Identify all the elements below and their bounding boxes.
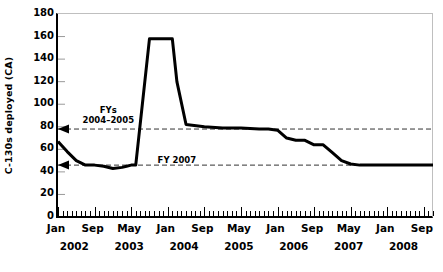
x-tick-mark-minor: [433, 211, 434, 216]
x-tick-label: Sep: [411, 222, 433, 235]
chart-annotation: FYs2004–2005: [83, 105, 135, 125]
x-year-label: 2005: [224, 240, 253, 253]
y-axis-title-label: C-130s deployed (CA): [4, 56, 15, 174]
annotation-line-2: 2004–2005: [83, 115, 135, 125]
annotation-line-1: FYs: [83, 105, 135, 115]
x-year-label: 2004: [169, 240, 198, 253]
x-axis-tick-labels: JanSepMayJanSepMayJanSepMayJanSep: [0, 222, 443, 238]
y-axis-title: C-130s deployed (CA): [0, 0, 18, 230]
x-axis-year-labels: 2002200320042005200620072008: [0, 240, 443, 256]
y-tick-label: 0: [28, 211, 54, 221]
y-tick-label: 120: [28, 76, 54, 86]
y-tick-label: 80: [28, 121, 54, 131]
x-tick-label: Jan: [157, 222, 175, 235]
x-tick-label: Sep: [301, 222, 323, 235]
x-tick-label: Jan: [376, 222, 394, 235]
chart-annotation: FY 2007: [158, 155, 197, 165]
x-tick-label: Jan: [47, 222, 65, 235]
x-year-label: 2003: [115, 240, 144, 253]
y-tick-label: 180: [28, 8, 54, 18]
y-tick-label: 140: [28, 53, 54, 63]
x-year-label: 2007: [334, 240, 363, 253]
annotation-line-1: FY 2007: [158, 155, 197, 165]
x-tick-label: May: [227, 222, 251, 235]
x-tick-label: Jan: [266, 222, 284, 235]
plot-area: FYs2004–2005FY 2007: [56, 13, 433, 218]
x-tick-label: Sep: [81, 222, 103, 235]
x-year-label: 2002: [60, 240, 89, 253]
chart-container: C-130s deployed (CA) 0204060801001201401…: [0, 0, 443, 272]
annotations-layer: FYs2004–2005FY 2007: [58, 14, 433, 217]
y-tick-label: 60: [28, 143, 54, 153]
y-tick-label: 40: [28, 166, 54, 176]
x-tick-label: May: [117, 222, 141, 235]
y-tick-label: 160: [28, 31, 54, 41]
x-year-label: 2006: [279, 240, 308, 253]
x-year-label: 2008: [389, 240, 418, 253]
y-tick-label: 20: [28, 188, 54, 198]
x-tick-label: Sep: [191, 222, 213, 235]
y-tick-label: 100: [28, 98, 54, 108]
x-tick-label: May: [337, 222, 361, 235]
